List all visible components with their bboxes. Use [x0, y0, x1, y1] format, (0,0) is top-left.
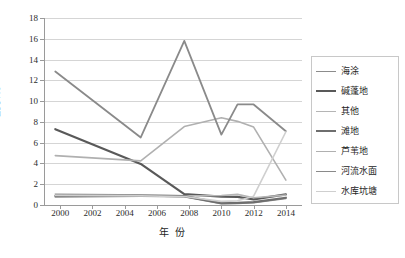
series-line: [55, 41, 286, 138]
y-tick-label: 18: [0, 14, 38, 23]
legend-item[interactable]: 河流水面: [316, 161, 398, 181]
legend-item[interactable]: 海涂: [316, 61, 398, 81]
legend-item[interactable]: 滩地: [316, 121, 398, 141]
y-tick-label: 6: [0, 138, 38, 147]
legend-item[interactable]: 碱蓬地: [316, 81, 398, 101]
x-tick-label: 2008: [180, 208, 198, 218]
legend-swatch-icon: [316, 90, 336, 92]
x-tick-label: 2004: [116, 208, 134, 218]
x-tick-label: 2010: [212, 208, 230, 218]
legend-item[interactable]: 水库坑塘: [316, 181, 398, 201]
legend-label: 河流水面: [341, 166, 377, 176]
y-tick-label: 16: [0, 34, 38, 43]
legend-swatch-icon: [316, 191, 336, 192]
series-line: [55, 118, 286, 180]
legend-swatch-icon: [316, 130, 336, 132]
series-lines: [44, 18, 302, 206]
x-tick-label: 2012: [245, 208, 263, 218]
x-tick-label: 2000: [51, 208, 69, 218]
legend-label: 芦苇地: [341, 146, 368, 156]
x-tick-label: 2014: [277, 208, 295, 218]
legend-swatch-icon: [316, 171, 336, 172]
legend-swatch-icon: [316, 71, 336, 72]
legend: 海涂碱蓬地其他滩地芦苇地河流水面水库坑塘: [311, 56, 399, 204]
y-tick-label: 10: [0, 97, 38, 106]
legend-item[interactable]: 芦苇地: [316, 141, 398, 161]
legend-swatch-icon: [316, 151, 336, 152]
x-tick-label: 2002: [83, 208, 101, 218]
legend-label: 海涂: [341, 66, 359, 76]
y-axis-title: LPI /%: [0, 86, 2, 116]
y-tick-label: 2: [0, 180, 38, 189]
x-axis-title: 年 份: [44, 224, 302, 239]
y-tick-label: 8: [0, 117, 38, 126]
y-tick-label: 12: [0, 76, 38, 85]
x-tick-label: 2006: [148, 208, 166, 218]
legend-label: 碱蓬地: [341, 86, 368, 96]
chart-root: 024681012141618 200020022004200620082010…: [0, 0, 405, 258]
y-tick-label: 4: [0, 159, 38, 168]
legend-item[interactable]: 其他: [316, 101, 398, 121]
legend-label: 滩地: [341, 126, 359, 136]
legend-swatch-icon: [316, 111, 336, 112]
y-tick-label: 14: [0, 55, 38, 64]
legend-label: 水库坑塘: [341, 186, 377, 196]
y-tick-label: 0: [0, 201, 38, 210]
legend-label: 其他: [341, 106, 359, 116]
series-line: [55, 129, 286, 199]
